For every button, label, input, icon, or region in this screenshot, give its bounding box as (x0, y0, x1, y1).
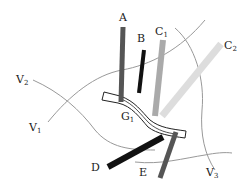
label-b: B (137, 32, 145, 45)
label-c2-main: C (224, 39, 232, 52)
curve-v3 (175, 28, 215, 170)
label-v1-sub: 1 (37, 127, 41, 135)
label-e: E (139, 166, 147, 179)
label-c1: C1 (155, 25, 168, 39)
bar-a (121, 27, 123, 102)
bar-b (139, 50, 144, 93)
label-v3: V3 (205, 166, 218, 180)
curve-bottom (135, 153, 232, 163)
label-a: A (118, 11, 128, 24)
bar-c1 (155, 40, 163, 116)
label-g1-sub: 1 (130, 116, 134, 124)
label-c1-main: C (155, 25, 163, 38)
label-g1: G1 (121, 110, 134, 124)
diagram-canvas: A B C1 C2 V2 V1 V3 G1 D E (0, 0, 248, 189)
label-c1-sub: 1 (163, 31, 167, 39)
curve-v2 (33, 80, 155, 150)
label-v2: V2 (15, 73, 28, 87)
label-g1-main: G (121, 110, 130, 123)
bar-c2 (162, 44, 221, 116)
label-v1: V1 (28, 121, 41, 135)
label-c2: C2 (224, 39, 237, 53)
label-c2-sub: 2 (232, 45, 236, 53)
label-v2-sub: 2 (24, 79, 28, 87)
label-d: D (91, 161, 100, 174)
label-v3-sub: 3 (214, 172, 218, 180)
